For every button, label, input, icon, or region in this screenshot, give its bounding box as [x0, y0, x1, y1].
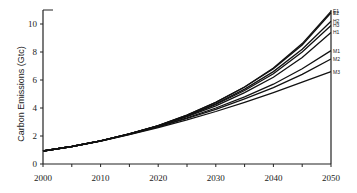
y-tick-label: 0 [33, 159, 38, 169]
series-label: E2 [333, 10, 339, 16]
series-line-h3 [43, 25, 331, 151]
series-label: M3 [333, 69, 340, 75]
x-tick-label: 2030 [207, 173, 226, 183]
y-tick-label: 6 [33, 75, 38, 85]
series-label: M1 [333, 48, 340, 54]
x-tick-label: 2010 [92, 173, 111, 183]
y-tick-label: 10 [28, 19, 38, 29]
series-label: H3 [333, 22, 340, 28]
y-tick-label: 2 [33, 131, 38, 141]
series-line-m3 [43, 72, 331, 151]
axes: 0246810200020102020203020402050 [28, 10, 341, 183]
x-tick-label: 2020 [149, 173, 168, 183]
y-tick-label: 4 [33, 103, 38, 113]
y-axis-label: Carbon Emissions (Gtc) [16, 46, 26, 142]
series-label: H1 [333, 29, 340, 35]
series-line-m2 [43, 59, 331, 151]
x-tick-label: 2000 [34, 173, 53, 183]
series-line-e2 [43, 13, 331, 151]
series-line-h2 [43, 21, 331, 151]
series-lines: E1E2H2H3H1M1M2M3 [43, 8, 340, 151]
line-chart: E1E2H2H3H1M1M2M3 02468102000201020202030… [0, 0, 357, 193]
series-label: M2 [333, 56, 340, 62]
y-tick-label: 8 [33, 47, 38, 57]
series-line-m1 [43, 51, 331, 151]
x-tick-label: 2040 [264, 173, 283, 183]
series-line-h1 [43, 32, 331, 151]
x-tick-label: 2050 [322, 173, 341, 183]
